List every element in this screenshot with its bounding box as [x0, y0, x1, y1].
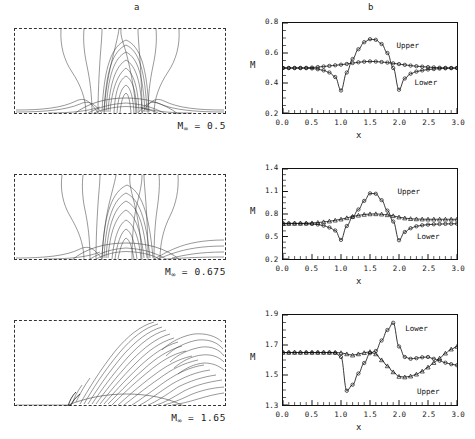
- x-axis-ticks: 0.00.51.01.52.02.53.0: [282, 116, 458, 128]
- series-line: [283, 61, 457, 68]
- x-axis-ticks: 0.00.51.01.52.02.53.0: [282, 408, 458, 420]
- x-tick-label: 2.5: [422, 264, 435, 273]
- x-tick-label: 0.5: [305, 264, 318, 273]
- x-tick-label: 1.5: [364, 410, 377, 419]
- x-tick-label: 2.0: [393, 118, 406, 127]
- x-tick-label: 3.0: [452, 410, 465, 419]
- x-tick-label: 1.0: [334, 118, 347, 127]
- y-tick-label: 1.1: [252, 186, 278, 195]
- y-tick-label: 0.8: [252, 17, 278, 26]
- figure-row: M∞ = 0.5 M 0.20.40.60.8 0.00.51.01.52.02…: [0, 0, 475, 146]
- series-annotation: Lower: [405, 324, 428, 333]
- mach-distribution-chart-subsonic: M 0.20.40.60.8 0.00.51.01.52.02.53.0 x U…: [248, 16, 470, 140]
- contour-lines: [14, 28, 226, 114]
- y-tick-label: 0.8: [252, 209, 278, 218]
- plot-svg: [283, 23, 457, 113]
- series-annotation: Lower: [415, 78, 438, 87]
- x-tick-label: 2.0: [393, 410, 406, 419]
- mach-contours-subsonic: [14, 28, 226, 114]
- freestream-mach-label: M∞ = 0.675: [0, 266, 226, 279]
- x-tick-label: 0.0: [276, 118, 289, 127]
- y-tick-label: 1.5: [252, 370, 278, 379]
- x-tick-label: 2.0: [393, 264, 406, 273]
- y-tick-label: 0.6: [252, 48, 278, 57]
- x-tick-label: 1.5: [364, 264, 377, 273]
- mach-contours-transonic: [14, 174, 226, 260]
- figure-root: a b: [0, 0, 475, 439]
- y-tick-label: 1.7: [252, 340, 278, 349]
- freestream-mach-label: M∞ = 1.65: [0, 412, 226, 425]
- x-tick-label: 1.0: [334, 264, 347, 273]
- x-tick-label: 0.0: [276, 410, 289, 419]
- figure-row: M∞ = 0.675 M 0.20.50.81.11.4 0.00.51.01.…: [0, 146, 475, 292]
- mach-distribution-chart-supersonic: M 1.31.51.71.9 0.00.51.01.52.02.53.0 x L…: [248, 308, 470, 432]
- x-axis-label: x: [356, 276, 361, 286]
- y-tick-label: 0.4: [252, 78, 278, 87]
- x-axis-ticks: 0.00.51.01.52.02.53.0: [282, 262, 458, 274]
- y-tick-label: 1.3: [252, 401, 278, 410]
- y-axis-ticks: 0.20.40.60.8: [248, 16, 278, 120]
- y-tick-label: 0.5: [252, 232, 278, 241]
- x-tick-label: 1.0: [334, 410, 347, 419]
- x-tick-label: 3.0: [452, 264, 465, 273]
- mach-distribution-chart-transonic: M 0.20.50.81.11.4 0.00.51.01.52.02.53.0 …: [248, 162, 470, 286]
- x-axis-label: x: [356, 130, 361, 140]
- x-tick-label: 0.5: [305, 118, 318, 127]
- figure-row: M∞ = 1.65 M 1.31.51.71.9 0.00.51.01.52.0…: [0, 292, 475, 438]
- x-axis-label: x: [356, 422, 361, 432]
- series-line: [283, 214, 457, 224]
- x-tick-label: 0.5: [305, 410, 318, 419]
- series-annotation: Lower: [417, 232, 440, 241]
- plot-area: [282, 22, 458, 114]
- series-annotation: Upper: [417, 387, 440, 396]
- freestream-mach-label: M∞ = 0.5: [0, 120, 226, 133]
- y-tick-label: 0.2: [252, 255, 278, 264]
- series-line: [283, 347, 457, 378]
- contour-lines: [14, 174, 226, 260]
- x-tick-label: 0.0: [276, 264, 289, 273]
- x-tick-label: 2.5: [422, 410, 435, 419]
- series-annotation: Upper: [398, 187, 421, 196]
- contour-lines: [14, 320, 226, 406]
- mach-contours-supersonic: [14, 320, 226, 406]
- plot-svg: [283, 169, 457, 259]
- y-tick-label: 1.9: [252, 309, 278, 318]
- y-tick-label: 0.2: [252, 109, 278, 118]
- plot-area: [282, 168, 458, 260]
- x-tick-label: 3.0: [452, 118, 465, 127]
- series-line: [283, 323, 457, 391]
- y-axis-ticks: 1.31.51.71.9: [248, 308, 278, 412]
- x-tick-label: 2.5: [422, 118, 435, 127]
- y-tick-label: 1.4: [252, 163, 278, 172]
- series-annotation: Upper: [396, 41, 419, 50]
- y-axis-ticks: 0.20.50.81.11.4: [248, 162, 278, 266]
- x-tick-label: 1.5: [364, 118, 377, 127]
